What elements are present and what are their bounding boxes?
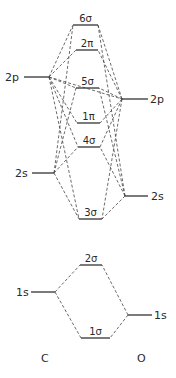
mo-level-1s: 1σ [81,326,110,338]
ao-level-c1s: 1s [16,286,55,299]
ao-label: 2p [5,71,19,84]
correlation-line [49,77,79,219]
mo-label: 2σ [85,253,98,264]
correlation-lines [49,25,128,338]
mo-label: 6σ [79,13,92,24]
mo-label: 4σ [83,135,96,146]
mo-label: 2π [81,38,93,49]
mo-level-6s: 6σ [73,13,98,25]
correlation-line [110,315,128,338]
mo-level-3s: 3σ [79,207,102,219]
ao-label: 1s [16,286,29,299]
correlation-line [54,88,76,173]
correlation-line [98,25,122,99]
correlation-line [98,50,122,99]
correlation-line [55,265,80,292]
mo-level-4s: 4σ [78,135,100,147]
mo-label: 1π [82,111,94,122]
atom-label-oxygen: O [137,352,146,365]
correlation-line [54,147,78,173]
mo-label: 1σ [89,326,102,337]
atom-labels: C O [41,352,146,365]
mo-level-2pi: 2π [76,38,98,50]
ao-label: 1s [154,309,167,322]
mo-level-2s: 2σ [80,253,102,265]
mo-diagram: 6σ2π5σ1π4σ3σ2σ1σ 2p2s1s2p2s1s C O [0,0,176,378]
mo-label: 5σ [81,76,94,87]
ao-label: 2s [151,190,164,203]
mo-label: 3σ [84,207,97,218]
correlation-line [102,265,128,315]
mo-diagram-canvas: 6σ2π5σ1π4σ3σ2σ1σ 2p2s1s2p2s1s C O [0,0,176,378]
mo-level-1pi: 1π [77,111,100,123]
correlation-line [98,25,125,196]
correlation-line [49,50,76,77]
atomic-orbital-levels: 2p2s1s2p2s1s [5,71,167,322]
ao-label: 2p [150,93,164,106]
ao-label: 2s [15,167,28,180]
correlation-line [54,173,79,219]
ao-level-c2s: 2s [15,167,54,180]
ao-level-c2p: 2p [5,71,49,84]
ao-level-o2s: 2s [125,190,164,203]
atom-label-carbon: C [41,352,49,365]
correlation-line [54,25,73,173]
ao-level-o2p: 2p [122,93,164,106]
molecular-orbital-levels: 6σ2π5σ1π4σ3σ2σ1σ [73,13,110,338]
correlation-line [55,292,81,338]
ao-level-o1s: 1s [128,309,167,322]
